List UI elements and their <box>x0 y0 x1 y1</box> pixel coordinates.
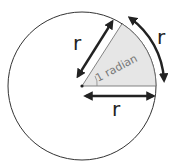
center-point <box>80 84 83 87</box>
radian-diagram: r r r 1 radian <box>0 0 175 167</box>
label-radius-slanted: r <box>73 31 82 55</box>
label-radius-horizontal: r <box>112 97 121 121</box>
label-arc: r <box>157 25 166 49</box>
